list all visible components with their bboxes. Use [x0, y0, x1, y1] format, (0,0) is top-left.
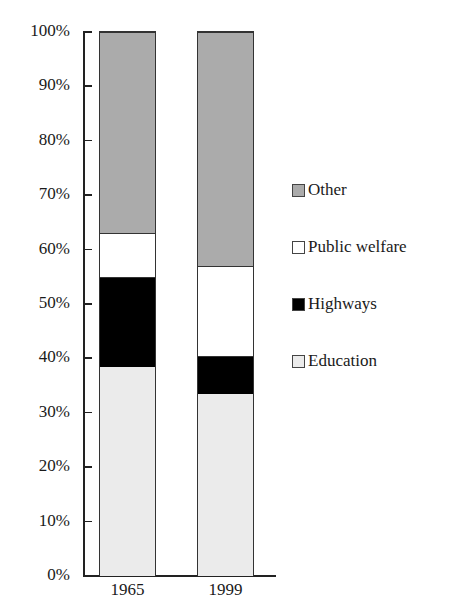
segment-public-welfare — [198, 266, 253, 356]
y-tick-mark — [83, 303, 92, 305]
y-tick-label: 40% — [0, 348, 70, 365]
y-tick-mark — [83, 412, 92, 414]
legend-swatch-icon — [292, 241, 305, 254]
y-tick-label: 90% — [0, 76, 70, 93]
y-tick-label: 50% — [0, 294, 70, 311]
segment-other — [100, 32, 155, 233]
legend-label: Other — [308, 180, 347, 200]
y-tick-label: 20% — [0, 457, 70, 474]
y-tick-label: 60% — [0, 240, 70, 257]
y-tick-mark — [83, 31, 92, 33]
x-tick-label: 1999 — [197, 580, 254, 600]
segment-highways — [100, 277, 155, 367]
legend-item-highways: Highways — [292, 294, 377, 314]
y-tick-label: 30% — [0, 403, 70, 420]
bar-1965 — [99, 31, 156, 576]
y-tick-label: 100% — [0, 22, 70, 39]
legend-label: Highways — [308, 294, 377, 314]
bar-1999 — [197, 31, 254, 576]
segment-education — [198, 394, 253, 576]
legend-swatch-icon — [292, 298, 305, 311]
segment-public-welfare — [100, 233, 155, 277]
x-tick-label: 1965 — [99, 580, 156, 600]
segment-other — [198, 32, 253, 266]
y-tick-label: 70% — [0, 185, 70, 202]
y-tick-mark — [83, 194, 92, 196]
y-tick-mark — [83, 85, 92, 87]
y-tick-mark — [83, 357, 92, 359]
legend-swatch-icon — [292, 184, 305, 197]
y-tick-mark — [83, 466, 92, 468]
legend-item-public-welfare: Public welfare — [292, 237, 407, 257]
y-tick-mark — [83, 140, 92, 142]
y-tick-label: 10% — [0, 512, 70, 529]
segment-education — [100, 367, 155, 576]
legend-item-other: Other — [292, 180, 347, 200]
legend-swatch-icon — [292, 355, 305, 368]
y-tick-mark — [83, 575, 92, 577]
y-tick-label: 0% — [0, 566, 70, 583]
legend-label: Public welfare — [308, 237, 407, 257]
segment-highways — [198, 356, 253, 394]
y-tick-label: 80% — [0, 131, 70, 148]
y-tick-mark — [83, 521, 92, 523]
y-tick-mark — [83, 249, 92, 251]
stacked-bar-chart: 0%10%20%30%40%50%60%70%80%90%100% 196519… — [0, 0, 459, 613]
legend-label: Education — [308, 351, 377, 371]
legend-item-education: Education — [292, 351, 377, 371]
